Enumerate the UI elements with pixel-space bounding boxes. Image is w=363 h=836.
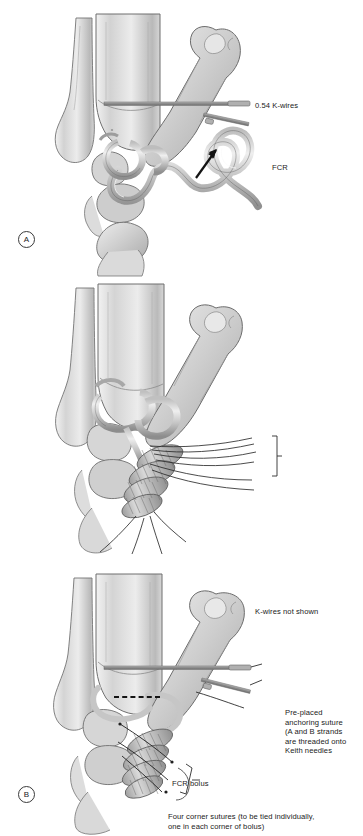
suture-bracket [272, 436, 282, 476]
panel-b: K-wires not shown Pre-placed anchoring s… [0, 278, 363, 556]
panel-a: 0.54 K-wires FCR A [0, 0, 363, 278]
panel-a-illustration [0, 0, 363, 278]
trapezium-bone [97, 222, 148, 276]
corner-sutures [100, 512, 186, 554]
k-wire-b [201, 678, 262, 693]
k-wires-label: 0.54 K-wires [255, 101, 298, 111]
panel-b-illustration [0, 278, 363, 556]
fcr-label: FCR [272, 163, 288, 173]
k-wire-lower [203, 113, 249, 126]
panel-c-illustration [0, 556, 363, 836]
suture-point-b [170, 760, 173, 763]
capsular-closure-bracket [176, 764, 200, 800]
panel-badge-a: A [18, 231, 35, 248]
ulna-bone [54, 578, 95, 730]
kwire-question-leader [196, 692, 244, 708]
ulna-bone [56, 288, 97, 446]
ulna-bone [55, 18, 94, 163]
panel-c: The second (B′) 0.54 K-wire is optional … [0, 556, 363, 836]
radius-bone [96, 14, 160, 150]
k-wire-upper [104, 101, 250, 106]
suture-point-a [118, 722, 121, 725]
